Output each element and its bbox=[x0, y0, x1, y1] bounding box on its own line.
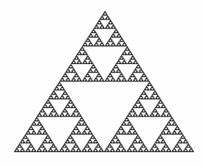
sierpinski-triangle bbox=[0, 0, 205, 166]
fractal-path bbox=[14, 11, 194, 152]
fractal-image bbox=[0, 0, 205, 166]
